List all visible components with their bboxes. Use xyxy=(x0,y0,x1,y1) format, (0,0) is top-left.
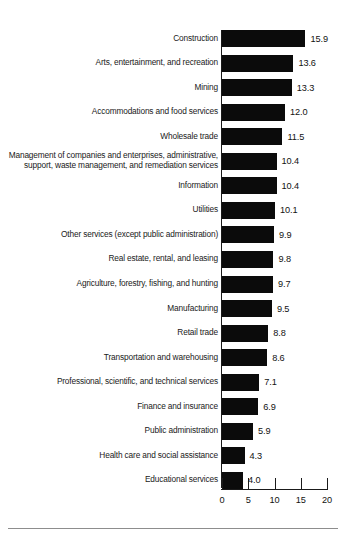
bar xyxy=(222,202,275,219)
bar-category-label: Information xyxy=(8,181,222,191)
bar-category-label: Management of companies and enterprises,… xyxy=(8,152,222,171)
x-axis-tick-label: 5 xyxy=(246,495,251,505)
bar-value-label: 12.0 xyxy=(290,107,307,117)
bar-row: Transportation and warehousing8.6 xyxy=(0,349,346,366)
bar xyxy=(222,79,292,96)
plot-area: Construction15.9Arts, entertainment, and… xyxy=(0,0,346,520)
bar-chart-figure: Construction15.9Arts, entertainment, and… xyxy=(0,0,346,542)
y-axis-line xyxy=(221,30,222,488)
bar xyxy=(222,374,259,391)
bar-category-label: Arts, entertainment, and recreation xyxy=(8,58,222,68)
bar xyxy=(222,251,273,268)
bar-row: Public administration5.9 xyxy=(0,423,346,440)
bar xyxy=(222,104,285,121)
bar xyxy=(222,226,274,243)
bar-category-label: Mining xyxy=(8,83,222,93)
bar-category-label: Construction xyxy=(8,34,222,44)
x-axis-line xyxy=(221,489,328,490)
bar-row: Agriculture, forestry, fishing, and hunt… xyxy=(0,276,346,293)
bar-value-label: 13.3 xyxy=(297,83,314,93)
bar xyxy=(222,325,268,342)
bar-category-label: Health care and social assistance xyxy=(8,451,222,461)
bar xyxy=(222,153,277,170)
bar-row: Retail trade8.8 xyxy=(0,325,346,342)
bar-value-label: 5.9 xyxy=(258,426,270,436)
bar xyxy=(222,276,273,293)
bar-row: Professional, scientific, and technical … xyxy=(0,374,346,391)
bar-category-label: Wholesale trade xyxy=(8,132,222,142)
bar xyxy=(222,349,267,366)
bar-category-label: Public administration xyxy=(8,427,222,437)
bar-value-label: 7.1 xyxy=(264,377,276,387)
bar xyxy=(222,300,272,317)
bar-row: Construction15.9 xyxy=(0,30,346,47)
bar-row: Information10.4 xyxy=(0,177,346,194)
bar-category-label: Other services (except public administra… xyxy=(8,230,222,240)
bar-category-label: Accommodations and food services xyxy=(8,107,222,117)
bar-row: Other services (except public administra… xyxy=(0,226,346,243)
x-axis-tick-label: 10 xyxy=(269,495,279,505)
bar-value-label: 9.9 xyxy=(279,230,291,240)
bar-row: Manufacturing9.5 xyxy=(0,300,346,317)
bar-row: Real estate, rental, and leasing9.8 xyxy=(0,251,346,268)
x-axis-tick-label: 0 xyxy=(219,495,224,505)
bar-value-label: 15.9 xyxy=(310,34,327,44)
bar xyxy=(222,472,243,489)
bar-row: Accommodations and food services12.0 xyxy=(0,104,346,121)
bar xyxy=(222,398,258,415)
bar-category-label: Utilities xyxy=(8,206,222,216)
x-axis-tick xyxy=(301,478,302,489)
bar-category-label: Agriculture, forestry, fishing, and hunt… xyxy=(8,279,222,289)
bar-row: Health care and social assistance4.3 xyxy=(0,447,346,464)
bar-value-label: 9.5 xyxy=(277,304,289,314)
bar-row: Mining13.3 xyxy=(0,79,346,96)
bar-value-label: 8.6 xyxy=(272,353,284,363)
bar-row: Management of companies and enterprises,… xyxy=(0,153,346,170)
bar-value-label: 10.1 xyxy=(280,205,297,215)
bar-value-label: 10.4 xyxy=(282,181,299,191)
bar-value-label: 10.4 xyxy=(282,156,299,166)
bar-category-label: Real estate, rental, and leasing xyxy=(8,255,222,265)
bar-value-label: 4.0 xyxy=(248,475,260,485)
bar-category-label: Professional, scientific, and technical … xyxy=(8,377,222,387)
bar-category-label: Manufacturing xyxy=(8,304,222,314)
bar xyxy=(222,447,245,464)
bar-category-label: Retail trade xyxy=(8,328,222,338)
bar-value-label: 4.3 xyxy=(250,451,262,461)
bar-category-label: Transportation and warehousing xyxy=(8,353,222,363)
x-axis-tick xyxy=(327,478,328,489)
x-axis-tick xyxy=(222,478,223,489)
bar xyxy=(222,55,293,72)
bar-category-label: Educational services xyxy=(8,476,222,486)
bar-row: Wholesale trade11.5 xyxy=(0,128,346,145)
bar-value-label: 6.9 xyxy=(263,402,275,412)
footer-divider xyxy=(8,528,338,529)
bar-value-label: 9.7 xyxy=(278,279,290,289)
bar-row: Educational services4.0 xyxy=(0,472,346,489)
bar xyxy=(222,423,253,440)
bar-value-label: 13.6 xyxy=(298,58,315,68)
bar-value-label: 8.8 xyxy=(273,328,285,338)
bar-row: Utilities10.1 xyxy=(0,202,346,219)
x-axis-tick-label: 20 xyxy=(322,495,332,505)
bar-value-label: 11.5 xyxy=(287,132,304,142)
bar xyxy=(222,30,305,47)
bar-value-label: 9.8 xyxy=(278,254,290,264)
x-axis-tick xyxy=(248,478,249,489)
bar xyxy=(222,128,282,145)
x-axis-tick xyxy=(275,478,276,489)
bar-category-label: Finance and insurance xyxy=(8,402,222,412)
bar-row: Arts, entertainment, and recreation13.6 xyxy=(0,55,346,72)
x-axis-tick-label: 15 xyxy=(296,495,306,505)
bar xyxy=(222,177,277,194)
bar-row: Finance and insurance6.9 xyxy=(0,398,346,415)
